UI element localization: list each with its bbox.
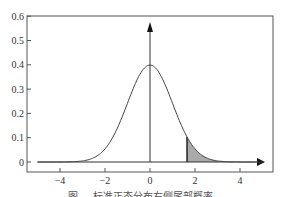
y-tick-label: 0.4 bbox=[12, 59, 25, 70]
y-tick-label: 0.1 bbox=[12, 132, 25, 143]
y-tick-label: 0.6 bbox=[12, 11, 25, 22]
y-tick-label: 0.5 bbox=[12, 35, 25, 46]
shaded-tail-area bbox=[187, 137, 263, 162]
y-axis-arrow-icon bbox=[147, 22, 153, 32]
x-tick-label: 2 bbox=[193, 175, 198, 186]
x-tick-label: 0 bbox=[148, 175, 153, 186]
figure-caption: 图 … 标准正态分布右侧尾部概率 bbox=[0, 188, 281, 197]
normal-distribution-chart: 00.10.20.30.40.50.6−4−2024 bbox=[0, 0, 281, 197]
x-tick-label: 4 bbox=[238, 175, 243, 186]
x-tick-label: −4 bbox=[55, 175, 66, 186]
y-tick-label: 0.2 bbox=[12, 108, 25, 119]
y-tick-label: 0.3 bbox=[12, 84, 25, 95]
x-tick-label: −2 bbox=[100, 175, 111, 186]
y-tick-label: 0 bbox=[19, 157, 24, 168]
